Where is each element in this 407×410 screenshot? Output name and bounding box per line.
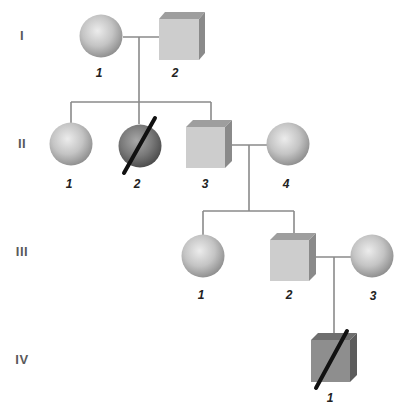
individual-III-2-male <box>270 233 316 281</box>
individual-label-I-2: 2 <box>165 66 185 80</box>
individual-label-III-2: 2 <box>279 288 299 302</box>
individual-II-1-female <box>50 123 93 166</box>
individual-I-2-male <box>159 12 205 60</box>
individual-label-II-1: 1 <box>59 177 79 191</box>
individual-label-IV-1: 1 <box>320 391 340 405</box>
individual-label-II-3: 3 <box>195 177 215 191</box>
generation-label-IV: IV <box>12 352 32 367</box>
individual-label-III-3: 3 <box>363 289 383 303</box>
generation-label-II: II <box>12 136 32 151</box>
generation-label-I: I <box>12 28 32 43</box>
individual-II-3-male <box>186 120 232 168</box>
generation-label-III: III <box>12 244 32 259</box>
individual-label-II-4: 4 <box>276 177 296 191</box>
individual-III-1-female <box>182 235 225 278</box>
individual-label-II-2: 2 <box>127 177 147 191</box>
individual-I-1-female <box>80 15 123 58</box>
pedigree-diagram <box>0 0 407 410</box>
individual-label-I-1: 1 <box>89 66 109 80</box>
individual-II-4-female <box>267 123 310 166</box>
individual-III-3-female <box>351 235 394 278</box>
individual-label-III-1: 1 <box>191 288 211 302</box>
